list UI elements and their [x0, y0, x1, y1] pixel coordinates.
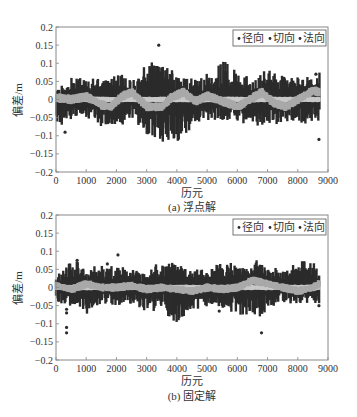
y-tick-label: 0.2 [41, 22, 54, 33]
radial-outlier-point [317, 138, 320, 141]
panel-a-legend-marker-tangential [269, 37, 272, 40]
radial-outlier-point [157, 44, 160, 47]
tangential-point-cluster [318, 281, 321, 286]
panel-a-legend-label-normal: 法向 [303, 31, 325, 44]
x-tick-label: 6000 [227, 175, 247, 186]
x-tick-label: 1000 [76, 363, 96, 374]
radial-outlier-point [150, 116, 153, 119]
x-tick-label: 6000 [227, 363, 247, 374]
y-tick-label: 0.1 [41, 246, 54, 257]
panel-a-legend: 径向 切向 法向 [233, 30, 326, 46]
panel-a-legend-marker-normal [299, 37, 302, 40]
panel-b-legend-label-radial: 径向 [242, 220, 264, 233]
x-tick-label: 2000 [106, 363, 126, 374]
y-tick-label: 0.05 [36, 264, 54, 275]
radial-outlier-point [317, 304, 320, 307]
radial-outlier-point [65, 331, 68, 334]
panel-b-caption: (b) 固定解 [168, 389, 217, 403]
y-tick-label: −0.2 [35, 167, 53, 178]
x-tick-label: 0 [54, 175, 59, 186]
x-tick-label: 0 [54, 363, 59, 374]
y-tick-label: −0.15 [30, 148, 53, 159]
panel-a-x-axis-title: 历元 [181, 187, 203, 199]
y-tick-label: −0.1 [35, 318, 53, 329]
x-tick-label: 1000 [76, 175, 96, 186]
y-tick-label: 0.15 [36, 40, 54, 51]
panel-a-marks [55, 44, 321, 142]
panel-a: −0.2−0.15−0.1−0.0500.050.10.150.2 010002… [11, 22, 338, 215]
radial-outlier-point [63, 131, 66, 134]
y-tick-label: −0.1 [35, 130, 53, 141]
x-tick-label: 5000 [197, 175, 217, 186]
x-tick-label: 7000 [258, 175, 278, 186]
radial-outlier-point [106, 262, 109, 265]
x-tick-label: 8000 [288, 363, 308, 374]
y-tick-label: 0.05 [36, 76, 54, 87]
radial-outlier-point [65, 308, 68, 311]
x-tick-label: 9000 [318, 363, 338, 374]
panel-a-legend-label-tangential: 切向 [273, 31, 295, 44]
x-tick-label: 4000 [167, 363, 187, 374]
panel-b-legend-marker-normal [299, 226, 302, 229]
panel-b-legend-label-normal: 法向 [303, 220, 325, 233]
x-tick-label: 8000 [288, 175, 308, 186]
radial-outlier-point [65, 326, 68, 329]
panel-a-legend-label-radial: 径向 [242, 31, 264, 44]
x-tick-label: 4000 [167, 175, 187, 186]
y-tick-label: 0.1 [41, 58, 54, 69]
x-tick-label: 3000 [137, 363, 157, 374]
panel-b-legend-label-tangential: 切向 [273, 220, 295, 233]
y-tick-label: −0.05 [30, 112, 53, 123]
x-tick-label: 7000 [258, 363, 278, 374]
x-tick-label: 2000 [106, 175, 126, 186]
tangential-point-cluster [318, 88, 321, 96]
y-tick-label: 0 [48, 282, 53, 293]
y-tick-label: 0.15 [36, 228, 54, 239]
panel-b-y-ticks: −0.2−0.15−0.1−0.0500.050.10.150.2 [30, 210, 59, 366]
y-tick-label: −0.05 [30, 300, 53, 311]
panel-b-x-axis-title: 历元 [181, 375, 203, 387]
radial-outlier-point [65, 311, 68, 314]
figure: −0.2−0.15−0.1−0.0500.050.10.150.2 010002… [0, 0, 357, 417]
y-tick-label: 0 [48, 94, 53, 105]
radial-outlier-point [76, 259, 79, 262]
normal-point-cluster [317, 98, 320, 102]
y-tick-label: −0.15 [30, 336, 53, 347]
radial-outlier-point [218, 309, 221, 312]
panel-a-y-axis-title: 偏差/m [11, 83, 24, 117]
y-tick-label: 0.2 [41, 210, 54, 221]
radial-outlier-point [116, 253, 119, 256]
panel-a-y-ticks: −0.2−0.15−0.1−0.0500.050.10.150.2 [30, 22, 59, 178]
panel-b: −0.2−0.15−0.1−0.0500.050.10.150.2 010002… [11, 210, 338, 404]
radial-outlier-point [260, 331, 263, 334]
panel-b-legend: 径向 切向 法向 [233, 219, 326, 235]
panel-b-y-axis-title: 偏差/m [11, 271, 24, 305]
x-tick-label: 9000 [318, 175, 338, 186]
panel-b-legend-marker-radial [238, 226, 241, 229]
panel-b-legend-marker-tangential [269, 226, 272, 229]
panel-a-caption: (a) 浮点解 [168, 200, 216, 214]
panel-b-marks [55, 253, 321, 334]
panel-a-legend-marker-radial [238, 37, 241, 40]
x-tick-label: 5000 [197, 363, 217, 374]
y-tick-label: −0.2 [35, 355, 53, 366]
x-tick-label: 3000 [137, 175, 157, 186]
radial-outlier-point [314, 73, 317, 76]
